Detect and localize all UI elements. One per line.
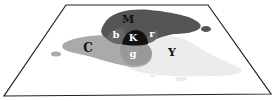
magenta-droplet xyxy=(201,26,211,32)
cmyk-diagram: M C Y K b r g xyxy=(0,0,272,101)
cyan-droplet xyxy=(51,52,61,57)
yellow-droplet xyxy=(175,77,187,82)
label-r: r xyxy=(149,28,155,39)
label-Y: Y xyxy=(167,46,176,59)
yellow-droplet-small xyxy=(151,75,156,78)
label-K: K xyxy=(129,32,138,43)
label-b: b xyxy=(113,29,120,40)
label-M: M xyxy=(122,13,134,26)
label-C: C xyxy=(83,41,93,55)
label-g: g xyxy=(130,48,137,59)
